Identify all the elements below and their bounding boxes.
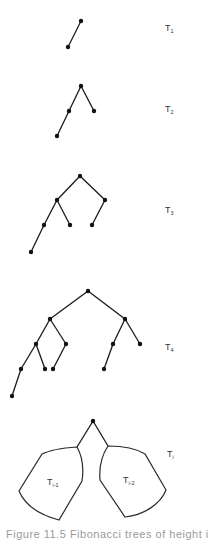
tree-node (55, 134, 59, 138)
tree-edge (68, 21, 81, 47)
ti-label: Ti (167, 449, 174, 460)
tree-node (90, 223, 94, 227)
tree-node (78, 174, 82, 178)
tree-t4: T4 (10, 289, 174, 398)
tree-node (42, 223, 46, 227)
tree-node (48, 317, 52, 321)
tree-edge (36, 344, 45, 369)
tree-node (29, 250, 33, 254)
tree-edge (57, 111, 69, 136)
tree-node (64, 342, 68, 346)
tree-node (19, 367, 23, 371)
tree-edge (125, 319, 140, 344)
tree-node (86, 289, 90, 293)
tree-edge (104, 344, 113, 369)
tree-edge (36, 319, 50, 344)
tree-node (92, 109, 96, 113)
tree-node (138, 342, 142, 346)
tree-edge (50, 319, 66, 344)
figure-caption: Figure 11.5 Fibonacci trees of height i (6, 528, 209, 540)
small-trees: T1T2T3T4 (10, 19, 174, 398)
tree-edge (57, 200, 70, 225)
tree-label: T4 (165, 342, 174, 353)
tree-node (66, 45, 70, 49)
tree-edge (50, 291, 88, 319)
tree-node (55, 198, 59, 202)
tree-label: T1 (165, 23, 174, 34)
tree-node (102, 367, 106, 371)
tree-node (67, 109, 71, 113)
root-node (91, 419, 95, 423)
tree-node (103, 198, 107, 202)
edge-root-right (93, 421, 108, 446)
tree-t3: T3 (29, 174, 174, 254)
tree-edge (81, 86, 94, 111)
tree-edge (31, 225, 44, 252)
tree-node (123, 317, 127, 321)
tree-node (43, 367, 47, 371)
tree-edge (69, 86, 81, 111)
tree-label: T2 (165, 104, 174, 115)
right-subtree-label: Ti-2 (123, 475, 135, 486)
left-subtree-label: Ti-1 (47, 477, 59, 488)
tree-node (51, 367, 55, 371)
tree-node (111, 342, 115, 346)
tree-node (79, 19, 83, 23)
tree-edge (53, 344, 66, 369)
tree-edge (80, 176, 105, 200)
tree-label: T3 (165, 205, 174, 216)
tree-edge (92, 200, 105, 225)
tree-node (79, 84, 83, 88)
tree-node (34, 342, 38, 346)
tree-node (68, 223, 72, 227)
tree-edge (12, 369, 21, 396)
tree-edge (44, 200, 57, 225)
edge-root-left (77, 421, 93, 447)
general-tree-ti: Ti-1 Ti-2 Ti (19, 419, 174, 520)
tree-t2: T2 (55, 84, 174, 138)
tree-edge (113, 319, 125, 344)
tree-node (10, 394, 14, 398)
tree-t1: T1 (66, 19, 174, 49)
tree-edge (88, 291, 125, 319)
tree-edge (57, 176, 80, 200)
tree-edge (21, 344, 36, 369)
